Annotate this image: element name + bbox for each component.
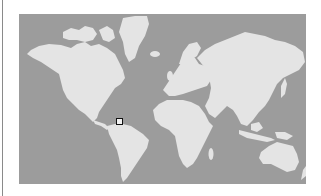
world-map-graphic — [19, 14, 306, 184]
united-kingdom — [167, 71, 173, 81]
world-map[interactable] — [19, 14, 306, 184]
iceland — [150, 51, 160, 57]
madagascar — [209, 148, 214, 160]
location-marker-icon[interactable] — [116, 118, 123, 125]
left-border-rule — [2, 0, 3, 196]
